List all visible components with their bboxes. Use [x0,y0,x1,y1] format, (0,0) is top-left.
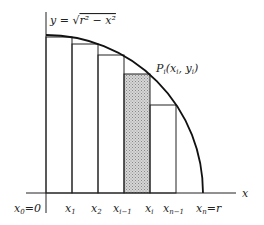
svg-text:xn=r: xn=r [196,202,222,216]
riemann-quarter-circle-diagram: y = √r² − x² Pi(xi, yi) x x0=0 x1 x2 xi−… [0,0,264,225]
svg-text:x2: x2 [91,202,102,216]
svg-text:xi−1: xi−1 [113,202,132,216]
x-axis-label: x [242,187,249,200]
svg-text:xn−1: xn−1 [163,202,184,216]
svg-text:xi: xi [145,202,153,216]
svg-text:x1: x1 [65,202,76,216]
svg-text:x0=0: x0=0 [14,202,41,216]
point-label: Pi(xi, yi) [155,62,198,76]
rectangles [46,37,176,193]
shaded-strip [124,74,150,193]
equation-label: y = √r² − x² [49,14,116,27]
x-tick-labels: x0=0 x1 x2 xi−1 xi xn−1 xn=r [14,202,222,216]
